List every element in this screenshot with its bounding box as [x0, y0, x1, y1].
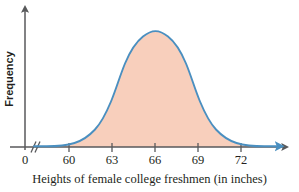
- y-axis-title: Frequency: [3, 39, 15, 119]
- x-tick-label-origin: 0: [10, 154, 40, 167]
- x-tick-label-66: 66: [140, 154, 170, 167]
- frequency-distribution-chart: 0 60 63 66 69 72 Heights of female colle…: [0, 0, 299, 192]
- x-tick-label-72: 72: [226, 154, 256, 167]
- distribution-area-fill: [47, 32, 265, 147]
- x-axis-title: Heights of female college freshmen (in i…: [0, 172, 299, 187]
- x-tick-label-60: 60: [54, 154, 84, 167]
- x-tick-label-69: 69: [183, 154, 213, 167]
- x-tick-label-63: 63: [97, 154, 127, 167]
